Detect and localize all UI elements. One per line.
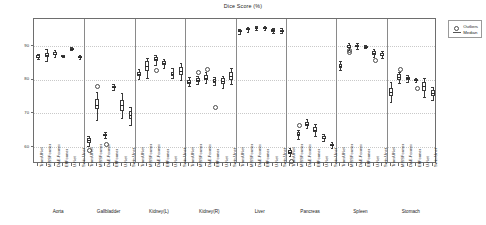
median-line: [162, 63, 166, 64]
whisker-cap-upper: [314, 124, 317, 125]
x-axis-tick: [373, 163, 374, 166]
figure: Dice Score (%) 60708090 TransUNetMISSFor…: [0, 0, 486, 225]
x-axis-label-daeformer: DAE-Former: [56, 144, 61, 167]
whisker-cap-upper: [96, 92, 99, 93]
legend-label: Median: [462, 30, 477, 35]
median-line: [380, 55, 384, 56]
whisker-cap-upper: [348, 43, 351, 44]
median-line: [313, 130, 317, 131]
whisker-cap-lower: [390, 102, 393, 103]
median-line: [112, 87, 116, 88]
whisker-cap-lower: [406, 82, 409, 83]
whisker-cap-lower: [196, 84, 199, 85]
plot-area: [33, 18, 436, 163]
whisker-cap-upper: [154, 55, 157, 56]
outlier-point: [95, 84, 100, 89]
whisker-cap-upper: [339, 61, 342, 62]
outlier-point: [154, 68, 159, 73]
median-line: [297, 134, 301, 135]
whisker-cap-upper: [230, 68, 233, 69]
whisker-cap-upper: [398, 72, 401, 73]
median-line: [137, 74, 141, 75]
median-line: [154, 59, 158, 60]
x-axis-label-missformer: MISSFormer: [249, 144, 254, 167]
median-line: [422, 86, 426, 87]
median-line: [305, 124, 309, 125]
whisker-cap-upper: [180, 63, 183, 64]
x-axis-label-effformer: EffFormer: [64, 149, 69, 167]
outlier-point: [415, 86, 420, 91]
x-axis-label-daeformer: DAE-Former: [257, 144, 262, 167]
median-line: [103, 135, 107, 136]
whisker-cap-lower: [171, 78, 174, 79]
whisker-cap-upper: [205, 72, 208, 73]
gridline-y: [34, 80, 435, 81]
median-line: [389, 92, 393, 93]
median-line: [213, 81, 217, 82]
median-line: [204, 78, 208, 79]
y-axis-tick-label: 60: [9, 144, 29, 149]
median-line: [330, 145, 334, 146]
x-axis-label-effformer: EffFormer: [366, 149, 371, 167]
outlier-point: [297, 123, 302, 128]
legend-item-median[interactable]: Median: [451, 29, 478, 35]
median-line: [221, 81, 225, 82]
legend-line-icon: [453, 32, 461, 33]
y-axis-tick: [31, 79, 34, 80]
whisker-cap-upper: [163, 59, 166, 60]
x-axis-label-missformer: MISSFormer: [148, 144, 153, 167]
x-axis-label-daeformer: DAE-Former: [358, 144, 363, 167]
group-separator: [286, 19, 287, 162]
whisker-cap-lower: [62, 57, 65, 58]
median-line: [406, 78, 410, 79]
x-axis-label-transunet: TransUNet: [140, 147, 145, 167]
whisker-cap-upper: [331, 142, 334, 143]
outlier-point: [373, 58, 378, 63]
outlier-point: [205, 67, 210, 72]
median-line: [78, 57, 82, 58]
x-axis-label-effformer: EffFormer: [215, 149, 220, 167]
whisker-cap-lower: [415, 82, 418, 83]
x-axis-label-daeformer: DAE-Former: [408, 144, 413, 167]
x-axis-label-effformer: EffFormer: [165, 149, 170, 167]
whisker-cap-upper: [138, 69, 141, 70]
whisker-cap-upper: [121, 93, 124, 94]
whisker-cap-lower: [70, 50, 73, 51]
whisker-cap-upper: [322, 134, 325, 135]
median-line: [271, 30, 275, 31]
x-axis-label-swinunet: Swin-Unet: [131, 148, 136, 167]
whisker-cap-lower: [272, 33, 275, 34]
chart-title: Dice Score (%): [0, 3, 486, 9]
median-line: [238, 31, 242, 32]
x-axis-tick: [138, 163, 139, 166]
whisker-cap-lower: [255, 30, 258, 31]
x-axis-label-swinunet: Swin-Unet: [282, 148, 287, 167]
whisker-cap-lower: [381, 58, 384, 59]
whisker-cap-lower: [180, 80, 183, 81]
median-line: [229, 76, 233, 77]
x-axis-label-transunet: TransUNet: [39, 147, 44, 167]
x-axis-label-missformer: MISSFormer: [47, 144, 52, 167]
median-line: [372, 53, 376, 54]
group-label-kidneyr: Kidney(R): [184, 209, 234, 214]
x-axis-label-transunet: TransUNet: [291, 147, 296, 167]
x-axis-label-missformer: MISSFormer: [400, 144, 405, 167]
x-axis-label-effformer: EffFormer: [316, 149, 321, 167]
whisker-cap-lower: [238, 34, 241, 35]
gridline-y: [34, 113, 435, 114]
median-line: [129, 115, 133, 116]
group-separator: [185, 19, 186, 162]
whisker-cap-lower: [121, 118, 124, 119]
x-axis-tick: [415, 163, 416, 166]
x-axis-label-unet: U-Net: [72, 156, 77, 167]
x-axis-label-transunet: TransUNet: [240, 147, 245, 167]
whisker-cap-lower: [112, 90, 115, 91]
x-axis-label-unet: U-Net: [274, 156, 279, 167]
median-line: [339, 66, 343, 67]
median-line: [397, 77, 401, 78]
whisker-cap-lower: [297, 139, 300, 140]
whisker-cap-lower: [54, 57, 57, 58]
whisker-cap-upper: [222, 76, 225, 77]
group-label-liver: Liver: [235, 209, 285, 214]
group-label-pancreas: Pancreas: [285, 209, 335, 214]
